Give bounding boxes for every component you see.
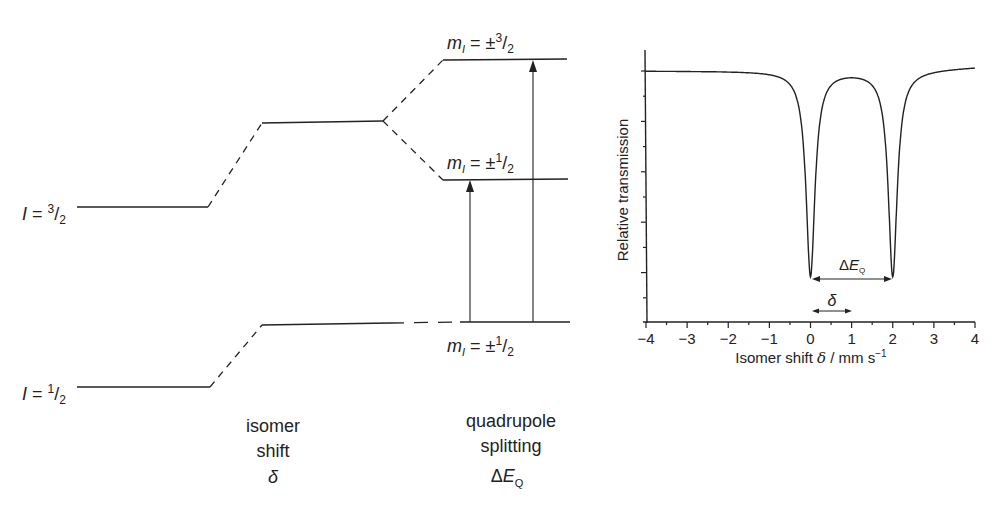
delta-EQ-label: ΔEQ: [839, 256, 865, 275]
label-mI-1-2-excited: mI = ±1/2: [447, 151, 514, 176]
level-mI-1-2-excited: [443, 179, 568, 180]
arrowhead-icon: [529, 60, 537, 72]
level-mI-3-2: [443, 59, 567, 60]
ground-isomer-shift-connector: [210, 325, 262, 387]
x-axis-ticks: [646, 322, 975, 328]
y-axis: [645, 50, 647, 323]
x-axis-label: Isomer shift δ / mm s−1: [735, 348, 887, 367]
y-axis-label: Relative transmission: [614, 119, 631, 262]
x-tick-label: −3: [679, 330, 696, 347]
arrowhead-icon: [466, 180, 474, 192]
x-tick-label: 2: [889, 330, 897, 347]
caption-isomer-symbol: δ: [268, 467, 279, 487]
x-tick-label: 3: [930, 330, 938, 347]
label-ground-spin: I = 1/2: [22, 382, 66, 407]
x-axis-tick-labels: −4−3−2−101234: [637, 330, 979, 347]
ground-level-shifted: [262, 323, 390, 325]
caption-quad-line2: splitting: [480, 436, 541, 456]
split-connector-up: [383, 60, 443, 121]
delta-annotation: [812, 309, 852, 314]
caption-isomer-line2: shift: [256, 441, 289, 461]
label-mI-3-2: mI = ±3/2: [447, 31, 514, 56]
label-mI-1-2-ground: mI = ±1/2: [447, 334, 514, 359]
x-tick-label: −1: [761, 330, 778, 347]
ground-level-dashed-gap: [390, 322, 460, 323]
mossbauer-figure: I = 3/2 I = 1/2 mI = ±3/2 mI = ±1/2 mI =…: [0, 0, 1000, 524]
x-tick-label: −4: [637, 330, 654, 347]
split-connector-down: [383, 121, 443, 180]
mossbauer-spectrum-chart: −4−3−2−101234 ΔEQ δ Relative transmissio…: [614, 50, 979, 367]
excited-isomer-shift-connector: [208, 123, 262, 207]
delta-EQ-annotation: [812, 276, 892, 282]
x-tick-label: 4: [971, 330, 979, 347]
delta-label: δ: [828, 292, 838, 309]
level-labels: I = 3/2 I = 1/2 mI = ±3/2 mI = ±1/2 mI =…: [22, 31, 514, 407]
x-tick-label: −2: [720, 330, 737, 347]
caption-isomer-line1: isomer: [246, 416, 300, 436]
label-excited-spin: I = 3/2: [22, 202, 66, 227]
x-tick-label: 0: [806, 330, 814, 347]
caption-quad-line1: quadrupole: [466, 411, 556, 431]
excited-level-shifted: [262, 121, 383, 123]
captions: isomer shift δ quadrupole splitting ΔEQ: [246, 411, 556, 489]
spectrum-curve: [646, 68, 975, 277]
caption-quad-symbol: ΔEQ: [491, 466, 524, 489]
x-tick-label: 1: [847, 330, 855, 347]
